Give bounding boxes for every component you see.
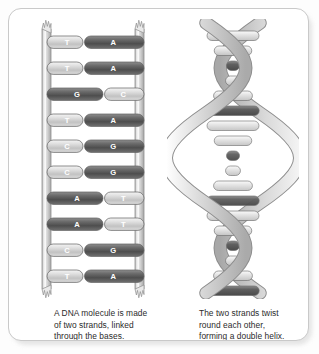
base-letter-G: G: [110, 246, 116, 255]
caption-ladder-line-2: of two strands, linked: [54, 320, 174, 332]
helix-base-pair: [226, 166, 241, 176]
base-letter-A: A: [74, 194, 80, 203]
base-letter-A: A: [111, 38, 117, 47]
helix-base-pair: [226, 151, 239, 161]
base-letter-G: G: [110, 142, 116, 151]
base-letter-A: A: [111, 116, 117, 125]
helix-base-pair: [207, 121, 259, 131]
base-letter-T: T: [121, 220, 126, 229]
caption-helix-line-1: The two strands twist: [199, 308, 309, 320]
base-letter-T: T: [65, 38, 70, 47]
base-letter-T: T: [65, 116, 70, 125]
diagram-panel: TATAGCTACGCGATATCGTA: [8, 8, 309, 341]
helix-base-pair: [226, 241, 239, 251]
helix-base-pair: [214, 136, 252, 146]
base-letter-T: T: [65, 272, 70, 281]
base-pair-rungs: TATAGCTACGCGATATCGTA: [47, 36, 144, 282]
base-letter-G: G: [74, 90, 80, 99]
base-letter-C: C: [121, 90, 127, 99]
base-letter-A: A: [111, 272, 117, 281]
caption-helix-line-2: round each other,: [199, 320, 309, 332]
caption-helix: The two strands twist round each other, …: [199, 308, 309, 341]
dna-double-helix: [167, 19, 299, 299]
base-letter-C: C: [64, 246, 70, 255]
caption-ladder-line-1: A DNA molecule is made: [54, 308, 174, 320]
dna-figure: TATAGCTACGCGATATCGTA: [0, 0, 319, 354]
backbone-left-rail: [42, 20, 51, 298]
helix-base-pair: [214, 181, 253, 191]
base-letter-C: C: [64, 142, 70, 151]
base-letter-G: G: [110, 168, 116, 177]
base-letter-T: T: [65, 64, 70, 73]
base-letter-C: C: [64, 168, 70, 177]
dna-ladder: TATAGCTACGCGATATCGTA: [31, 19, 163, 299]
base-letter-A: A: [111, 64, 117, 73]
caption-helix-line-3: forming a double helix.: [199, 331, 309, 341]
caption-ladder: A DNA molecule is made of two strands, l…: [54, 308, 174, 341]
helix-base-pair: [226, 61, 239, 71]
caption-ladder-line-3: through the bases.: [54, 331, 174, 341]
base-letter-A: A: [74, 220, 80, 229]
base-letter-T: T: [121, 194, 126, 203]
